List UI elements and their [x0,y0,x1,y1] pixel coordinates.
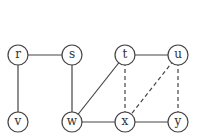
node-label: v [14,114,22,128]
node-s: s [62,45,82,65]
edge-u-x [125,55,178,122]
graph-diagram: rstuvwxy [0,0,199,140]
node-label: x [122,114,129,128]
node-r: r [8,45,28,65]
node-t: t [115,45,135,65]
edges-layer [18,55,178,122]
node-x: x [115,112,135,132]
node-w: w [62,112,82,132]
node-v: v [8,112,28,132]
node-label: y [174,114,182,128]
node-label: s [69,47,75,61]
node-label: t [123,47,128,61]
node-u: u [168,45,188,65]
node-label: r [15,47,21,61]
edge-t-w [72,55,125,122]
node-y: y [168,112,188,132]
node-label: u [174,47,182,61]
node-label: w [67,114,78,128]
